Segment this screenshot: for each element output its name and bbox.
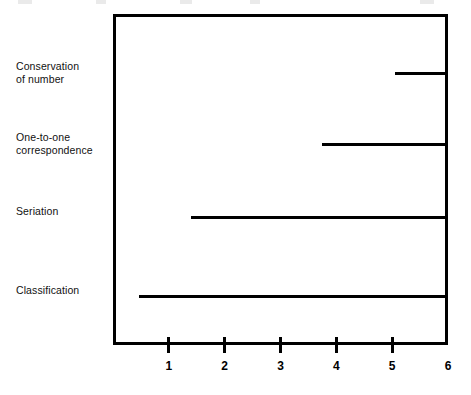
x-tick-label-3: 3 <box>271 359 291 373</box>
chart-container: Conservation of number One-to-one corres… <box>0 0 471 395</box>
scan-artifact <box>18 0 32 4</box>
scan-artifact <box>250 0 260 4</box>
category-label-one-to-one-correspondence: One-to-one correspondence <box>16 131 111 156</box>
x-tick-5 <box>391 337 394 353</box>
bar-classification <box>139 295 448 298</box>
x-tick-label-5: 5 <box>382 359 402 373</box>
category-label-conservation-of-number: Conservation of number <box>16 60 111 85</box>
x-tick-label-4: 4 <box>326 359 346 373</box>
scan-artifact <box>180 0 192 4</box>
x-tick-label-2: 2 <box>215 359 235 373</box>
x-tick-label-6: 6 <box>438 359 458 373</box>
x-tick-label-1: 1 <box>159 359 179 373</box>
bar-conservation-of-number <box>395 72 448 75</box>
x-tick-4 <box>335 337 338 353</box>
bar-one-to-one-correspondence <box>322 143 448 146</box>
scan-artifact <box>420 0 434 4</box>
x-tick-1 <box>167 337 170 353</box>
x-tick-3 <box>279 337 282 353</box>
bar-seriation <box>191 216 448 219</box>
x-tick-2 <box>223 337 226 353</box>
scan-artifact <box>96 0 106 4</box>
category-label-seriation: Seriation <box>16 205 111 218</box>
category-label-classification: Classification <box>16 284 111 297</box>
